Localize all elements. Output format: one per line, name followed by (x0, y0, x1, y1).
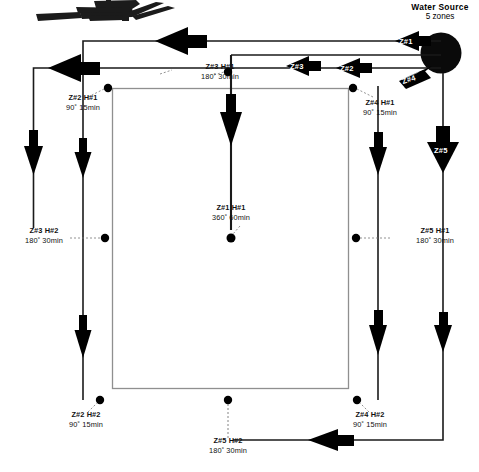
head-node-z1-h1 (227, 234, 236, 243)
label-head-z5-h2: Z#5 H#2 180˚ 30min (178, 436, 278, 455)
arrow-right-col-upper (369, 132, 387, 175)
arrow-zone2 (336, 58, 372, 78)
head-node-z5-h2 (224, 396, 232, 404)
label-head-z1-h1-spec: 360˚ 60min (181, 213, 281, 223)
arrow-zone5 (427, 126, 459, 173)
label-head-z5-h1: Z#5 H#1 180˚ 30min (390, 226, 479, 245)
label-head-z4-h1: Z#4 H#1 90˚ 15min (330, 98, 430, 117)
arrow-left-col-b-lower (75, 315, 92, 358)
arrow-zone4 (399, 66, 432, 89)
label-head-z4-h2-id: Z#4 H#2 (320, 410, 420, 420)
label-head-z5-h2-spec: 180˚ 30min (178, 446, 278, 456)
arrow-bottom-rail-left (308, 429, 354, 451)
label-head-z2-h1-id: Z#2 H#1 (33, 93, 133, 103)
head-node-z2-h2 (96, 396, 104, 404)
head-node-z5-h1 (352, 234, 360, 242)
label-head-z5-h1-spec: 180˚ 30min (390, 236, 479, 246)
water-source-title-line1: Water Source (390, 2, 479, 12)
label-head-z2-h1: Z#2 H#1 90˚ 15min (33, 93, 133, 112)
label-head-z4-h1-spec: 90˚ 15min (330, 108, 430, 118)
label-head-z3-h1-id: Z#3 H#1 (170, 62, 270, 72)
label-head-z1-h1: Z#1 H#1 360˚ 60min (181, 203, 281, 222)
leader-z1-h1 (233, 226, 240, 234)
label-head-z4-h2-spec: 90˚ 15min (320, 420, 420, 430)
pipe-zone5 (233, 73, 443, 440)
label-head-z1-h1-id: Z#1 H#1 (181, 203, 281, 213)
arrow-center-col (220, 94, 242, 146)
arrow-left-col-a (24, 130, 43, 175)
label-head-z2-h2-spec: 90˚ 15min (36, 420, 136, 430)
label-head-z2-h2-id: Z#2 H#2 (36, 410, 136, 420)
water-source-title: Water Source 5 zones (390, 2, 479, 21)
arrow-top-rail-left (155, 27, 207, 55)
label-head-z4-h2: Z#4 H#2 90˚ 15min (320, 410, 420, 429)
head-node-z3-h2 (101, 234, 109, 242)
label-head-z2-h2: Z#2 H#2 90˚ 15min (36, 410, 136, 429)
arrow-left-col-b-upper (75, 138, 92, 178)
label-head-z3-h2-spec: 180˚ 30min (0, 236, 94, 246)
irrigation-diagram-canvas: Water Source 5 zones Z#1 Z#2 Z#3 Z#4 Z#5… (0, 0, 479, 472)
leader-z4-h1 (357, 89, 373, 97)
arrow-far-right-col-lower (434, 312, 452, 352)
label-head-z3-h1-spec: 180˚ 30min (170, 72, 270, 82)
head-node-z4-h1 (349, 84, 357, 92)
arrow-right-col-lower (369, 310, 387, 355)
label-head-z5-h1-id: Z#5 H#1 (390, 226, 479, 236)
arrow-zone3 (286, 56, 321, 76)
arrow-rail2-left (48, 54, 100, 82)
label-head-z5-h2-id: Z#5 H#2 (178, 436, 278, 446)
head-node-z2-h1 (104, 84, 112, 92)
label-head-z3-h2-id: Z#3 H#2 (0, 226, 94, 236)
water-source-title-line2: 5 zones (390, 12, 479, 21)
label-head-z4-h1-id: Z#4 H#1 (330, 98, 430, 108)
label-head-z3-h1: Z#3 H#1 180˚ 30min (170, 62, 270, 81)
head-node-z4-h2 (353, 396, 361, 404)
label-head-z3-h2: Z#3 H#2 180˚ 30min (0, 226, 94, 245)
label-head-z2-h1-spec: 90˚ 15min (33, 103, 133, 113)
